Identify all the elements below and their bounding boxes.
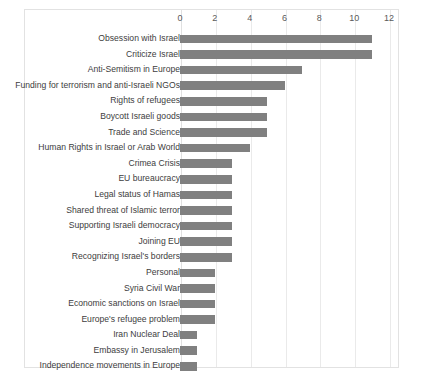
category-label: Recognizing Israel's borders bbox=[72, 249, 180, 265]
bar-row: Personal bbox=[0, 265, 421, 281]
bar bbox=[180, 66, 302, 75]
bar bbox=[180, 253, 232, 262]
bar-track bbox=[180, 249, 421, 265]
bar-row: Iran Nuclear Deal bbox=[0, 327, 421, 343]
bar bbox=[180, 35, 372, 44]
bar bbox=[180, 284, 215, 293]
category-label: Shared threat of Islamic terror bbox=[66, 203, 180, 219]
bar bbox=[180, 191, 232, 200]
bar-row: Legal status of Hamas bbox=[0, 187, 421, 203]
category-label: Supporting Israeli democracy bbox=[69, 218, 180, 234]
category-label: Syria Civil War bbox=[124, 281, 180, 297]
bar bbox=[180, 159, 232, 168]
category-label: Personal bbox=[146, 265, 180, 281]
bar bbox=[180, 97, 267, 106]
bar-row: Crimea Crisis bbox=[0, 156, 421, 172]
bar-track bbox=[180, 78, 421, 94]
bar-track bbox=[180, 312, 421, 328]
bar-row: Recognizing Israel's borders bbox=[0, 249, 421, 265]
bar bbox=[180, 222, 232, 231]
category-label: Funding for terrorism and anti-Israeli N… bbox=[15, 78, 180, 94]
bar-track bbox=[180, 156, 421, 172]
bar-track bbox=[180, 234, 421, 250]
bar-row: Supporting Israeli democracy bbox=[0, 218, 421, 234]
bar bbox=[180, 315, 215, 324]
bar bbox=[180, 300, 215, 309]
bar-row: Rights of refugees bbox=[0, 93, 421, 109]
bar-row: Funding for terrorism and anti-Israeli N… bbox=[0, 78, 421, 94]
bar-row: Embassy in Jerusalem bbox=[0, 343, 421, 359]
bar-rows: Obsession with IsraelCriticize IsraelAnt… bbox=[0, 31, 421, 374]
bar-track bbox=[180, 203, 421, 219]
category-label: Boycott Israeli goods bbox=[100, 109, 180, 125]
bar-track bbox=[180, 281, 421, 297]
bar-track bbox=[180, 62, 421, 78]
bar-chart: 024681012 Obsession with IsraelCriticize… bbox=[0, 0, 421, 387]
category-label: Europe's refugee problem bbox=[81, 312, 180, 328]
bar-row: Human Rights in Israel or Arab World bbox=[0, 140, 421, 156]
bar-row: Syria Civil War bbox=[0, 281, 421, 297]
bar-row: Joining EU bbox=[0, 234, 421, 250]
bar-track bbox=[180, 218, 421, 234]
bar-track bbox=[180, 31, 421, 47]
bar-row: Independence movements in Europe bbox=[0, 358, 421, 374]
bar-row: Obsession with Israel bbox=[0, 31, 421, 47]
bar bbox=[180, 128, 267, 137]
category-label: Obsession with Israel bbox=[98, 31, 180, 47]
bar-track bbox=[180, 296, 421, 312]
category-label: Economic sanctions on Israel bbox=[68, 296, 180, 312]
bar bbox=[180, 81, 285, 90]
category-label: Criticize Israel bbox=[126, 47, 180, 63]
category-label: EU bureaucracy bbox=[118, 171, 180, 187]
bar bbox=[180, 269, 215, 278]
bar bbox=[180, 175, 232, 184]
bar-track bbox=[180, 358, 421, 374]
bar-row: Boycott Israeli goods bbox=[0, 109, 421, 125]
bar-track bbox=[180, 187, 421, 203]
bar bbox=[180, 113, 267, 122]
category-label: Legal status of Hamas bbox=[94, 187, 180, 203]
bar bbox=[180, 144, 250, 153]
bar bbox=[180, 346, 197, 355]
category-label: Iran Nuclear Deal bbox=[113, 327, 180, 343]
category-label: Independence movements in Europe bbox=[40, 358, 180, 374]
category-label: Rights of refugees bbox=[110, 93, 180, 109]
bar-track bbox=[180, 265, 421, 281]
bar-track bbox=[180, 125, 421, 141]
bar-track bbox=[180, 109, 421, 125]
bar-track bbox=[180, 93, 421, 109]
bar-track bbox=[180, 140, 421, 156]
bar bbox=[180, 50, 372, 59]
bar bbox=[180, 362, 197, 371]
bar-track bbox=[180, 47, 421, 63]
bar-row: Criticize Israel bbox=[0, 47, 421, 63]
bar-row: EU bureaucracy bbox=[0, 171, 421, 187]
bar bbox=[180, 206, 232, 215]
bar-row: Europe's refugee problem bbox=[0, 312, 421, 328]
bar-row: Anti-Semitism in Europe bbox=[0, 62, 421, 78]
category-label: Joining EU bbox=[138, 234, 180, 250]
bar-row: Economic sanctions on Israel bbox=[0, 296, 421, 312]
category-label: Anti-Semitism in Europe bbox=[88, 62, 180, 78]
bar-row: Trade and Science bbox=[0, 125, 421, 141]
bar bbox=[180, 237, 232, 246]
category-label: Human Rights in Israel or Arab World bbox=[38, 140, 180, 156]
category-label: Crimea Crisis bbox=[128, 156, 180, 172]
bar-row: Shared threat of Islamic terror bbox=[0, 203, 421, 219]
bar-track bbox=[180, 343, 421, 359]
category-label: Trade and Science bbox=[108, 125, 180, 141]
bar-track bbox=[180, 327, 421, 343]
bar bbox=[180, 331, 197, 340]
bar-track bbox=[180, 171, 421, 187]
category-label: Embassy in Jerusalem bbox=[94, 343, 180, 359]
